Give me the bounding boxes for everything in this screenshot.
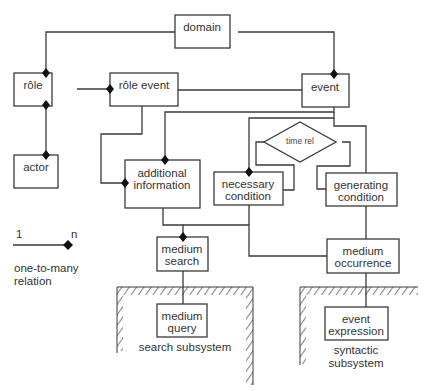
entity-role-label: rôle bbox=[23, 79, 42, 91]
entity-actor: actor bbox=[14, 155, 58, 188]
diamond-icon bbox=[63, 240, 73, 250]
legend-one-label: 1 bbox=[16, 228, 22, 240]
entity-medium-occurrence: medium occurrence bbox=[327, 239, 399, 273]
relationship-time-rel: time rel bbox=[264, 122, 336, 162]
entity-event: event bbox=[302, 74, 349, 107]
entity-domain-label: domain bbox=[183, 21, 221, 33]
er-diagram: domain rôle actor rôle event event addit… bbox=[0, 0, 425, 391]
search-subsystem-label: search subsystem bbox=[139, 341, 232, 353]
legend-many-label: n bbox=[71, 228, 77, 240]
entity-medium-search-label-2: search bbox=[165, 255, 200, 267]
entity-role-event: rôle event bbox=[110, 73, 178, 106]
entity-medium-query-label-2: query bbox=[168, 322, 197, 334]
syntactic-subsystem-label-2: subsystem bbox=[329, 357, 384, 369]
entity-medium-search: medium search bbox=[157, 237, 208, 271]
legend-caption-2: relation bbox=[14, 275, 52, 287]
entity-medium-query: medium query bbox=[157, 304, 207, 337]
entity-medium-query-label-1: medium bbox=[162, 310, 203, 322]
entity-additional-information: additional information bbox=[125, 160, 200, 208]
entity-necessary-condition: necessary condition bbox=[214, 172, 283, 205]
legend: 1 n one-to-many relation bbox=[13, 228, 79, 287]
entity-role-event-label: rôle event bbox=[119, 79, 170, 91]
entity-generating-condition-label-2: condition bbox=[338, 191, 384, 203]
entity-domain: domain bbox=[175, 15, 230, 48]
entity-necessary-condition-label-1: necessary bbox=[222, 178, 275, 190]
syntactic-subsystem-label-1: syntactic bbox=[334, 344, 379, 356]
entity-event-expression-label-2: expression bbox=[328, 325, 384, 337]
entity-medium-search-label-1: medium bbox=[162, 243, 203, 255]
entity-additional-information-label-2: information bbox=[134, 179, 191, 191]
entity-event-label: event bbox=[311, 81, 340, 93]
relationship-time-rel-label: time rel bbox=[286, 136, 314, 146]
legend-caption-1: one-to-many bbox=[14, 262, 79, 274]
entity-generating-condition: generating condition bbox=[326, 173, 397, 206]
entity-additional-information-label-1: additional bbox=[137, 167, 186, 179]
entity-necessary-condition-label-2: condition bbox=[225, 190, 271, 202]
entity-actor-label: actor bbox=[23, 161, 49, 173]
entity-medium-occurrence-label-2: occurrence bbox=[335, 257, 392, 269]
entity-event-expression-label-1: event bbox=[342, 313, 371, 325]
entity-event-expression: event expression bbox=[325, 307, 388, 340]
entity-medium-occurrence-label-1: medium bbox=[343, 245, 384, 257]
entity-generating-condition-label-1: generating bbox=[334, 179, 388, 191]
